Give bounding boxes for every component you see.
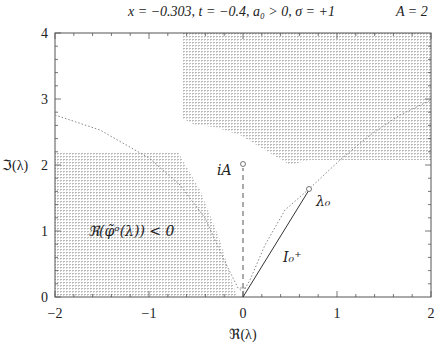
title-amplitude: A = 2	[395, 4, 428, 19]
x-tick-labels: −2 −1 0 1 2	[48, 306, 435, 321]
contour-i0-label: I₀⁺	[282, 249, 302, 265]
svg-text:0: 0	[41, 290, 48, 305]
svg-text:−1: −1	[142, 306, 157, 321]
svg-text:2: 2	[428, 306, 435, 321]
shaded-region-right	[182, 33, 431, 165]
svg-text:0: 0	[240, 306, 247, 321]
y-tick-labels: 0 1 2 3 4	[41, 26, 48, 305]
point-ia-marker	[241, 162, 246, 167]
y-axis-label: ℑ(λ)	[2, 158, 28, 174]
ia-label: iA	[217, 162, 232, 178]
region-label: ℜ(φ̃ᵒ(λ)) < 0	[88, 223, 175, 239]
region-plot: −2 −1 0 1 2 0 1 2 3 4 ℜ(λ) ℑ(λ) x = −0.3…	[0, 0, 441, 353]
svg-text:3: 3	[41, 92, 48, 107]
svg-text:−2: −2	[48, 306, 63, 321]
svg-text:4: 4	[41, 26, 48, 41]
contour-i0-plus	[243, 190, 309, 297]
svg-text:2: 2	[41, 158, 48, 173]
svg-text:1: 1	[41, 224, 48, 239]
title-params: x = −0.303, t = −0.4, a₀ > 0, σ = +1	[127, 4, 335, 19]
point-lambda0-marker	[307, 187, 312, 192]
svg-text:1: 1	[334, 306, 341, 321]
lambda0-label: λ₀	[315, 193, 331, 209]
x-axis-label: ℜ(λ)	[229, 327, 256, 343]
